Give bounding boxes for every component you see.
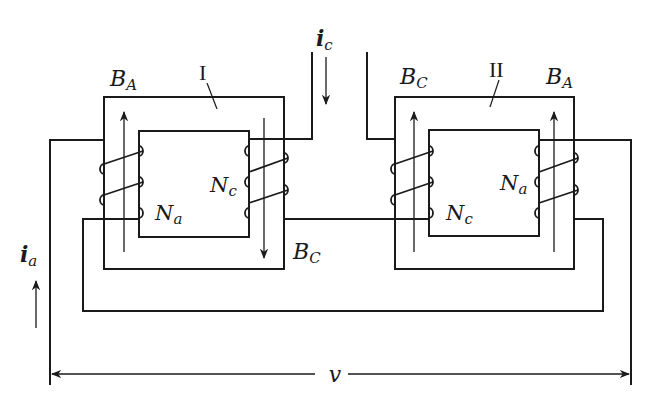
ac-wire-right: [539, 140, 631, 385]
ac-wire-left: [50, 140, 104, 385]
core-II-label: II: [489, 57, 504, 82]
voltage-label: v: [329, 362, 342, 387]
flux-label-BC-core-I: BC: [292, 239, 321, 267]
flux-label-BC-core-II: BC: [399, 64, 428, 92]
winding-label-Nc-core-I: Nc: [209, 173, 237, 200]
coil-Nc-core-II: [391, 146, 433, 218]
coil-Na-core-II: [535, 146, 578, 218]
control-wire-left: [249, 52, 312, 139]
winding-label-Na-core-I: Na: [154, 201, 182, 228]
winding-label-Nc-core-II: Nc: [445, 201, 473, 228]
core-II-leader: [490, 80, 499, 107]
flux-label-BA-core-II: BA: [545, 64, 573, 92]
winding-label-Na-core-II: Na: [499, 171, 527, 198]
current-label-ic: ic: [316, 25, 333, 54]
core-I: [104, 97, 284, 269]
coil-Nc-core-I: [245, 146, 288, 218]
flux-label-BA-core-I: BA: [109, 66, 137, 94]
core-I-label: I: [199, 60, 206, 85]
control-wire-right: [367, 52, 395, 139]
inner-loop-wire: [83, 219, 603, 311]
magnetic-core-diagram: I II BA BC BC BA Na Nc Nc Na ic ia v: [0, 0, 654, 409]
current-label-ia: ia: [20, 241, 37, 270]
core-II: [395, 97, 574, 269]
coil-Na-core-I: [100, 146, 143, 218]
